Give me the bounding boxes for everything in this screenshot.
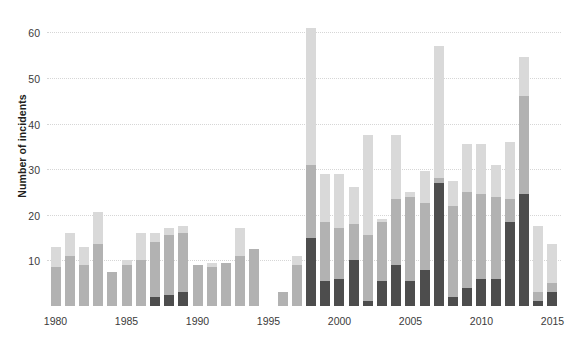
bar-2009 [462,144,472,306]
plot-area: 102030405060 [47,14,561,306]
bar-segment-light-segment [519,57,529,96]
bar-segment-light-segment [533,226,543,292]
bar-segment-light-segment [136,233,146,260]
bar-1993 [235,228,245,306]
y-axis-tick-label: 60 [28,27,40,39]
x-axis-tick-label: 2010 [470,315,493,327]
bar-1997 [292,256,302,306]
bar-1999 [320,174,330,306]
bar-segment-light-segment [235,228,245,255]
bar-1994 [249,249,259,306]
bar-segment-mid-segment [79,265,89,306]
bar-segment-mid-segment [235,256,245,306]
gridline: 40 [47,124,561,125]
bar-segment-mid-segment [51,267,61,306]
bar-segment-light-segment [476,144,486,194]
bar-segment-mid-segment [547,283,557,292]
bar-segment-light-segment [363,135,373,235]
bar-2004 [391,135,401,306]
bar-segment-dark-segment [405,281,415,306]
bar-segment-light-segment [320,174,330,222]
bar-segment-dark-segment [334,279,344,306]
bar-segment-light-segment [79,247,89,265]
x-axis-tick-label: 1995 [257,315,280,327]
bar-segment-dark-segment [462,288,472,306]
bar-2002 [363,135,373,306]
bar-2000 [334,174,344,306]
y-axis-title: Number of incidents [16,66,28,226]
bar-2013 [519,57,529,306]
bar-2007 [434,46,444,306]
bar-segment-mid-segment [193,265,203,306]
bar-1981 [65,233,75,306]
bar-chart-figure: Number of incidents 102030405060 1980198… [0,0,570,347]
bar-segment-dark-segment [491,279,501,306]
bar-segment-dark-segment [448,297,458,306]
bar-segment-dark-segment [476,279,486,306]
bar-segment-light-segment [491,165,501,197]
bar-segment-mid-segment [349,224,359,261]
bar-segment-dark-segment [306,238,316,306]
bar-segment-dark-segment [349,260,359,306]
x-axis-tick-label: 1990 [186,315,209,327]
bar-segment-light-segment [547,244,557,283]
bar-segment-light-segment [150,233,160,242]
bar-segment-light-segment [93,212,103,244]
bar-segment-mid-segment [136,260,146,306]
y-axis-tick-label: 10 [28,255,40,267]
bar-segment-mid-segment [491,197,501,279]
bar-segment-mid-segment [505,199,515,222]
bar-2012 [505,142,515,306]
bar-segment-light-segment [51,247,61,268]
bar-2015 [547,244,557,306]
bar-segment-mid-segment [363,235,373,301]
bar-segment-light-segment [349,187,359,224]
bar-1991 [207,263,217,306]
bar-1980 [51,247,61,306]
bar-1996 [278,292,288,306]
bar-2014 [533,226,543,306]
bar-segment-mid-segment [164,235,174,294]
y-axis-tick-label: 40 [28,119,40,131]
bar-segment-mid-segment [462,192,472,288]
x-axis-tick-label: 2015 [541,315,564,327]
bar-segment-mid-segment [93,244,103,306]
bar-segment-mid-segment [122,265,132,306]
bar-segment-light-segment [462,144,472,192]
bar-segment-dark-segment [391,265,401,306]
bar-segment-light-segment [505,142,515,199]
bar-segment-dark-segment [420,270,430,307]
bar-segment-mid-segment [533,292,543,301]
bar-segment-mid-segment [292,265,302,306]
bar-segment-mid-segment [150,242,160,297]
bar-segment-mid-segment [519,96,529,194]
bar-segment-light-segment [306,28,316,165]
bar-segment-dark-segment [505,222,515,306]
bar-1985 [122,260,132,306]
y-axis-tick-label: 50 [28,73,40,85]
y-axis-tick-label: 30 [28,164,40,176]
bar-2003 [377,219,387,306]
bar-segment-mid-segment [334,228,344,278]
bar-segment-dark-segment [178,292,188,306]
gridline: 60 [47,32,561,33]
bar-2005 [405,192,415,306]
x-axis: 19801985199019952000200520102015 [47,306,561,340]
bar-1982 [79,247,89,306]
bar-2008 [448,181,458,306]
bar-segment-dark-segment [164,295,174,306]
bar-segment-dark-segment [377,281,387,306]
bar-1984 [107,272,117,306]
bar-segment-mid-segment [391,199,401,265]
bar-2001 [349,187,359,306]
bar-segment-light-segment [391,135,401,199]
bar-segment-dark-segment [320,281,330,306]
bar-segment-light-segment [65,233,75,256]
bar-segment-light-segment [434,46,444,178]
bar-1986 [136,233,146,306]
bar-1998 [306,28,316,306]
bar-segment-mid-segment [405,197,415,281]
bar-segment-light-segment [334,174,344,229]
bar-segment-light-segment [448,181,458,206]
bar-segment-mid-segment [207,267,217,306]
